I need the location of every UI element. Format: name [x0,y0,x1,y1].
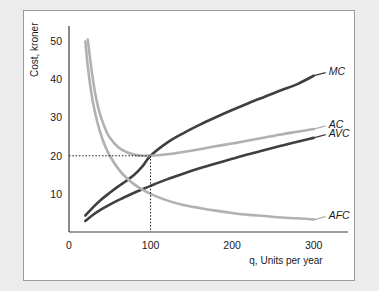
y-tick-labels: 1020304050 [50,35,62,199]
leader-afc [314,217,326,220]
figure-page: 1020304050 0100200300 MCACAVCAFC Cost, k… [0,0,379,291]
x-tick-label: 300 [305,239,323,251]
curve-labels: MCACAVCAFC [328,65,350,221]
axes-layer [69,26,348,232]
x-tick-label: 100 [142,239,160,251]
x-axis-title: q, Units per year [249,255,323,266]
curve-afc [85,41,313,219]
x-tick-label: 200 [223,239,241,251]
y-axis-title: Cost, kroner [29,22,40,77]
y-tick-label: 20 [50,150,62,162]
cost-curves-chart: 1020304050 0100200300 MCACAVCAFC Cost, k… [24,11,354,280]
y-tick-label: 50 [50,35,62,47]
curve-label-afc: AFC [328,209,350,221]
y-tick-label: 30 [50,111,62,123]
y-tick-label: 40 [50,73,62,85]
curve-label-mc: MC [329,65,346,77]
x-tick-labels: 0100200300 [66,239,323,251]
y-tick-label: 10 [50,188,62,200]
x-tick-label: 0 [66,239,72,251]
curves-layer [85,40,325,221]
chart-frame: 1020304050 0100200300 MCACAVCAFC Cost, k… [23,10,355,281]
leader-ac [314,126,326,129]
curve-label-avc: AVC [328,127,350,139]
leader-avc [314,135,326,138]
curve-ac [88,40,314,156]
leader-mc [314,73,326,76]
